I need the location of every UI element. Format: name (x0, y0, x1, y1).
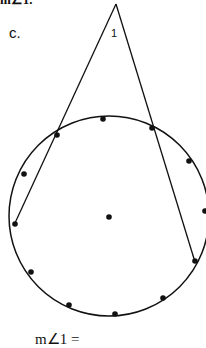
center-point (106, 214, 112, 220)
circle-points (12, 116, 206, 317)
secant-left (15, 4, 116, 223)
geometry-diagram (0, 0, 206, 348)
secant-right (116, 4, 195, 262)
answer-prompt: m∠1 = (35, 330, 79, 348)
